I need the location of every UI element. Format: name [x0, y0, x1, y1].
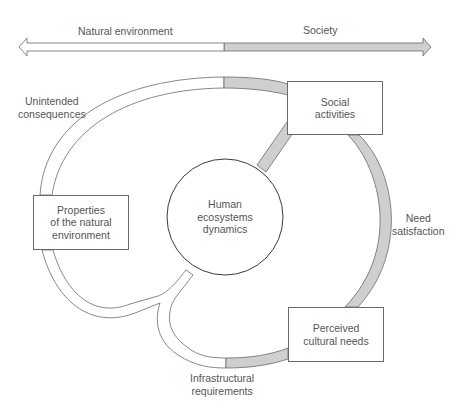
node-properties-label: Properties of the natural environment [50, 204, 111, 242]
node-perceived-cultural-needs: Perceived cultural needs [288, 307, 384, 362]
flow-label-need-satisfaction: Need satisfaction [392, 212, 445, 237]
node-social-activities: Social activities [287, 81, 383, 135]
axis-label-natural-environment: Natural environment [78, 25, 173, 38]
node-social-activities-label: Social activities [315, 96, 355, 121]
node-properties-natural-environment: Properties of the natural environment [33, 195, 129, 250]
flow-label-unintended-consequences: Unintended consequences [18, 95, 86, 120]
node-human-ecosystems-dynamics: Human ecosystems dynamics [167, 159, 283, 275]
axis-label-society: Society [303, 24, 337, 37]
need-satisfaction-band [345, 135, 391, 307]
node-perceived-cultural-needs-label: Perceived cultural needs [303, 322, 368, 347]
nature-society-axis-arrow [19, 38, 431, 56]
flow-label-infrastructural-requirements: Infrastructural requirements [190, 372, 254, 397]
center-node-label: Human ecosystems dynamics [197, 198, 252, 236]
